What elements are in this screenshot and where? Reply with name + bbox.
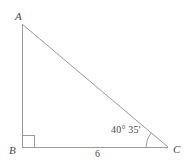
right-angle-marker bbox=[22, 135, 34, 147]
vertex-label-b: B bbox=[9, 145, 16, 156]
geometry-figure: A B C 6 40° 35' bbox=[0, 0, 189, 166]
triangle-svg bbox=[0, 0, 189, 166]
vertex-label-a: A bbox=[15, 11, 22, 22]
side-ac-line bbox=[22, 24, 168, 147]
angle-arc-marker bbox=[146, 133, 151, 147]
angle-measure-label-c: 40° 35' bbox=[111, 125, 141, 135]
vertex-label-c: C bbox=[173, 144, 180, 155]
side-length-label-bc: 6 bbox=[95, 149, 100, 159]
